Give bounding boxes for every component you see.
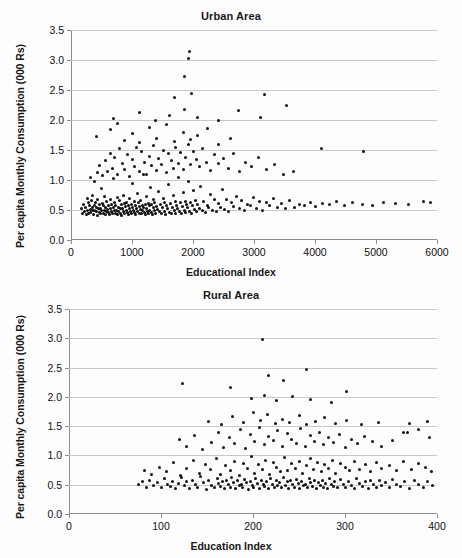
chart-urban-area: Urban Area Per capita Monthly Consumptio…: [0, 8, 462, 283]
gridline-y: [69, 338, 437, 339]
data-point: [275, 399, 278, 402]
data-point: [343, 204, 346, 207]
data-point: [355, 477, 358, 480]
data-point: [298, 414, 301, 417]
data-point: [286, 469, 289, 472]
data-point: [223, 487, 226, 490]
data-point: [184, 200, 187, 203]
data-point: [332, 441, 335, 444]
data-point: [181, 205, 184, 208]
data-point: [133, 165, 136, 168]
gridline-y: [69, 426, 437, 427]
data-point: [174, 200, 177, 203]
data-point: [250, 397, 253, 400]
y-axis-line-rural: [69, 309, 70, 514]
data-point: [313, 440, 316, 443]
y-axis-line-urban: [71, 30, 72, 240]
data-point: [155, 137, 158, 140]
data-point: [109, 198, 112, 201]
data-point: [239, 428, 242, 431]
data-point: [358, 468, 361, 471]
data-point: [327, 467, 330, 470]
data-point: [298, 487, 301, 490]
data-point: [182, 191, 185, 194]
data-point: [263, 93, 266, 96]
y-tick: [65, 426, 69, 427]
x-tick-label: 0: [68, 246, 74, 258]
data-point: [192, 189, 195, 192]
data-point: [207, 206, 210, 209]
data-point: [333, 480, 336, 483]
data-point: [321, 202, 324, 205]
data-point: [93, 180, 96, 183]
y-axis-label-urban: Per capita Monthly Consumption (000 Rs): [14, 44, 26, 248]
gridline-y: [69, 455, 437, 456]
data-point: [244, 161, 247, 164]
data-point: [281, 418, 284, 421]
data-point: [246, 467, 249, 470]
data-point: [230, 201, 233, 204]
data-point: [338, 433, 341, 436]
data-point: [286, 432, 289, 435]
data-point: [105, 200, 108, 203]
data-point: [165, 171, 168, 174]
data-point: [309, 434, 312, 437]
data-point: [275, 479, 278, 482]
data-point: [189, 201, 192, 204]
data-point: [174, 212, 177, 215]
data-point: [280, 202, 283, 205]
data-point: [145, 173, 148, 176]
data-point: [210, 441, 213, 444]
data-point: [258, 487, 261, 490]
data-point: [380, 484, 383, 487]
data-point: [133, 200, 136, 203]
data-point: [313, 479, 316, 482]
data-point: [192, 459, 195, 462]
data-point: [118, 199, 121, 202]
data-point: [308, 477, 311, 480]
data-point: [269, 477, 272, 480]
data-point: [106, 170, 109, 173]
data-point: [272, 439, 275, 442]
data-point: [334, 422, 337, 425]
data-point: [225, 198, 228, 201]
data-point: [148, 155, 151, 158]
data-point: [141, 480, 144, 483]
data-point: [225, 479, 228, 482]
data-point: [344, 486, 347, 489]
data-point: [138, 111, 141, 114]
data-point: [361, 485, 364, 488]
y-tick-label: 0.5: [47, 479, 62, 491]
data-point: [150, 164, 153, 167]
data-point: [422, 486, 425, 489]
data-point: [430, 470, 433, 473]
data-point: [187, 143, 190, 146]
x-tick: [437, 240, 438, 244]
data-point: [217, 119, 220, 122]
data-point: [224, 464, 227, 467]
data-point: [91, 194, 94, 197]
data-point: [221, 188, 224, 191]
data-point: [232, 481, 235, 484]
data-point: [217, 143, 220, 146]
data-point: [182, 168, 185, 171]
data-point: [196, 116, 199, 119]
data-point: [227, 167, 230, 170]
data-point: [298, 460, 301, 463]
x-axis-label-rural: Education Index: [0, 540, 462, 552]
data-point: [95, 135, 98, 138]
gridline-y: [69, 397, 437, 398]
data-point: [222, 446, 225, 449]
data-point: [196, 486, 199, 489]
x-tick-label: 2000: [181, 246, 204, 258]
data-point: [250, 455, 253, 458]
data-point: [241, 486, 244, 489]
y-tick: [67, 30, 71, 31]
y-tick-label: 1.5: [49, 144, 64, 156]
data-point: [252, 411, 255, 414]
data-point: [219, 473, 222, 476]
data-point: [288, 199, 291, 202]
data-point: [413, 479, 416, 482]
data-point: [279, 470, 282, 473]
data-point: [167, 152, 170, 155]
